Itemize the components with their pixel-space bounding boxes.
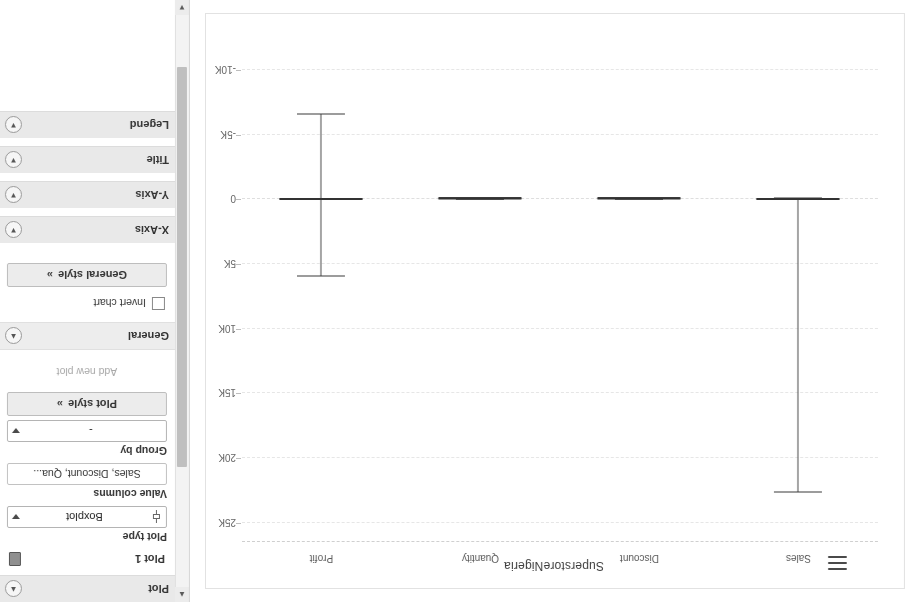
chevron-up-icon[interactable]: ▲ [5, 328, 22, 345]
chart-frame: SuperstoreNigeria -10K-5K05K10K15K20K25K… [205, 13, 905, 589]
sidebar-scrollbar[interactable]: ▲ ▼ [175, 0, 189, 602]
chevron-down-icon[interactable] [12, 515, 20, 520]
general-style-label: General style [58, 269, 127, 281]
chevron-down-icon[interactable]: ▼ [5, 117, 22, 134]
sidebar-spacer [0, 138, 175, 146]
sidebar-spacer [0, 208, 175, 216]
plot-area: -10K-5K05K10K15K20K25KSalesDiscountQuant… [242, 57, 878, 542]
x-axis-tick-label: Discount [620, 553, 659, 564]
group-by-label: Group by [7, 445, 167, 457]
boxplot-series[interactable] [560, 57, 719, 542]
value-columns-field[interactable]: Sales, Discount, Qua... [7, 463, 167, 485]
chart-pane: SuperstoreNigeria -10K-5K05K10K15K20K25K… [190, 0, 917, 602]
double-chevron-right-icon: » [47, 269, 53, 281]
scrollbar-up-arrow-icon[interactable]: ▲ [175, 587, 189, 602]
whisker-cap-upper [298, 276, 346, 277]
section-title-legend: Legend [22, 119, 169, 131]
boxplot-icon [151, 511, 162, 524]
section-title-x-axis: X-Axis [22, 224, 169, 236]
whisker-cap-lower [298, 113, 346, 114]
chevron-up-icon[interactable]: ▲ [5, 581, 22, 598]
section-header-general[interactable]: General ▲ [0, 322, 175, 350]
section-title-title: Title [22, 154, 169, 166]
x-axis-tick-label: Profit [310, 553, 333, 564]
plot-panel: Plot 1 Plot type Boxplot Value columns S… [0, 350, 175, 575]
median-line [598, 199, 681, 200]
general-style-button[interactable]: General style » [7, 263, 167, 287]
section-header-plot[interactable]: Plot ▲ [0, 575, 175, 602]
plot-style-label: Plot style [68, 398, 117, 410]
plot-type-label: Plot type [7, 531, 167, 543]
double-chevron-right-icon: » [57, 398, 63, 410]
median-line [757, 199, 840, 200]
chevron-down-icon[interactable]: ▼ [5, 222, 22, 239]
trash-icon[interactable] [9, 552, 21, 566]
whisker-cap-upper [775, 492, 823, 493]
sidebar-spacer [0, 173, 175, 181]
group-by-select[interactable]: - [7, 420, 167, 442]
section-header-y-axis[interactable]: Y-Axis ▼ [0, 181, 175, 208]
chevron-down-icon[interactable] [12, 429, 20, 434]
plot-type-value: Boxplot [20, 511, 149, 523]
scrollbar-down-arrow-icon[interactable]: ▼ [175, 0, 189, 15]
boxplot-series[interactable] [401, 57, 560, 542]
median-line [280, 199, 363, 200]
whisker-line [798, 198, 799, 492]
rotated-content-wrapper: SuperstoreNigeria -10K-5K05K10K15K20K25K… [0, 0, 917, 602]
group-by-value: - [20, 425, 162, 437]
invert-chart-label: Invert chart [93, 298, 146, 310]
scrollbar-thumb[interactable] [177, 67, 187, 467]
sidebar-body: Plot ▲ Plot 1 Plot type Boxplot Value co… [0, 0, 175, 602]
section-title-plot: Plot [22, 583, 169, 595]
plot-type-select[interactable]: Boxplot [7, 506, 167, 528]
x-axis-tick-label: Quantity [462, 553, 499, 564]
boxplot-series[interactable] [242, 57, 401, 542]
add-new-plot-link[interactable]: Add new plot [7, 358, 167, 388]
invert-chart-checkbox[interactable] [152, 297, 165, 310]
whisker-line [321, 114, 322, 276]
general-panel: Invert chart General style » [0, 251, 175, 322]
section-title-general: General [22, 330, 169, 342]
plot-style-button[interactable]: Plot style » [7, 392, 167, 416]
chevron-down-icon[interactable]: ▼ [5, 152, 22, 169]
sidebar-spacer [0, 243, 175, 251]
median-line [439, 199, 522, 200]
invert-chart-checkbox-row[interactable]: Invert chart [7, 291, 167, 316]
value-columns-label: Value columns [7, 488, 167, 500]
section-title-y-axis: Y-Axis [22, 189, 169, 201]
chevron-down-icon[interactable]: ▼ [5, 187, 22, 204]
app-screen: SuperstoreNigeria -10K-5K05K10K15K20K25K… [0, 0, 917, 602]
plot-item-row[interactable]: Plot 1 [7, 549, 167, 569]
boxplot-series[interactable] [719, 57, 878, 542]
plot-item-label: Plot 1 [21, 553, 165, 565]
x-axis-tick-label: Sales [786, 553, 811, 564]
settings-sidebar: ▲ ▼ Plot ▲ Plot 1 Plot type [0, 0, 190, 602]
section-header-title[interactable]: Title ▼ [0, 146, 175, 173]
section-header-legend[interactable]: Legend ▼ [0, 111, 175, 138]
section-header-x-axis[interactable]: X-Axis ▼ [0, 216, 175, 243]
